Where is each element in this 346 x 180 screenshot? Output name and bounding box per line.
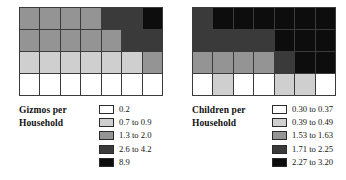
legend-item: 1.3 to 2.0 xyxy=(99,129,151,142)
map-cell xyxy=(234,8,253,29)
map-cell xyxy=(193,52,212,73)
map-cell xyxy=(40,74,59,95)
map-cell xyxy=(20,8,39,29)
map-cell xyxy=(316,74,335,95)
map-cell xyxy=(81,74,100,95)
map-cell xyxy=(295,30,314,51)
map-cell xyxy=(213,8,232,29)
legend-item-label: 1.71 to 2.25 xyxy=(292,145,333,154)
legend-item: 1.53 to 1.63 xyxy=(272,129,333,142)
legend-item: 0.39 to 0.49 xyxy=(272,116,333,129)
legend-item: 2.27 to 3.20 xyxy=(272,156,333,169)
map-cell xyxy=(143,52,162,73)
legend-item-label: 0.39 to 0.49 xyxy=(292,118,333,127)
map-cell xyxy=(234,30,253,51)
legend-swatch-icon xyxy=(99,145,114,154)
map-cell xyxy=(193,8,212,29)
panel-gizmos: Gizmos per Household 0.20.7 to 0.91.3 to… xyxy=(0,0,173,180)
map-cell xyxy=(20,74,39,95)
map-cell xyxy=(102,30,121,51)
map-cell xyxy=(102,8,121,29)
map-cell xyxy=(254,8,273,29)
children-legend-title: Children per Household xyxy=(192,103,270,129)
choropleth-figure: Gizmos per Household 0.20.7 to 0.91.3 to… xyxy=(0,0,346,180)
map-cell xyxy=(213,74,232,95)
legend-item-label: 2.27 to 3.20 xyxy=(292,158,333,167)
legend-item: 2.6 to 4.2 xyxy=(99,143,151,156)
map-cell xyxy=(234,52,253,73)
gizmos-grid xyxy=(19,7,163,96)
children-map xyxy=(192,7,336,96)
map-cell xyxy=(275,74,294,95)
gizmos-legend-title-line-1: Gizmos per xyxy=(19,104,97,117)
gizmos-legend-keys: 0.20.7 to 0.91.3 to 2.02.6 to 4.28.9 xyxy=(97,103,151,169)
gizmos-legend: Gizmos per Household 0.20.7 to 0.91.3 to… xyxy=(19,103,169,175)
children-legend-keys: 0.30 to 0.370.39 to 0.491.53 to 1.631.71… xyxy=(270,103,333,169)
legend-item: 8.9 xyxy=(99,156,151,169)
legend-item-label: 1.53 to 1.63 xyxy=(292,131,333,140)
children-legend-title-line-2: Household xyxy=(192,117,270,130)
map-cell xyxy=(122,30,141,51)
map-cell xyxy=(254,30,273,51)
map-cell xyxy=(122,74,141,95)
legend-swatch-icon xyxy=(99,118,114,127)
children-legend: Children per Household 0.30 to 0.370.39 … xyxy=(192,103,342,175)
map-cell xyxy=(275,52,294,73)
map-cell xyxy=(295,8,314,29)
map-cell xyxy=(81,52,100,73)
map-cell xyxy=(61,52,80,73)
map-cell xyxy=(81,30,100,51)
legend-item: 1.71 to 2.25 xyxy=(272,143,333,156)
map-cell xyxy=(122,52,141,73)
map-cell xyxy=(102,74,121,95)
legend-swatch-icon xyxy=(272,145,287,154)
legend-item-label: 0.2 xyxy=(119,105,130,114)
legend-swatch-icon xyxy=(272,118,287,127)
map-cell xyxy=(143,8,162,29)
map-cell xyxy=(316,30,335,51)
legend-swatch-icon xyxy=(99,158,114,167)
map-cell xyxy=(254,52,273,73)
legend-swatch-icon xyxy=(272,105,287,114)
map-cell xyxy=(40,8,59,29)
map-cell xyxy=(193,30,212,51)
map-cell xyxy=(143,74,162,95)
map-cell xyxy=(295,74,314,95)
map-cell xyxy=(275,30,294,51)
legend-item: 0.30 to 0.37 xyxy=(272,103,333,116)
map-cell xyxy=(40,30,59,51)
gizmos-map xyxy=(19,7,163,96)
map-cell xyxy=(61,30,80,51)
map-cell xyxy=(193,74,212,95)
map-cell xyxy=(316,52,335,73)
map-cell xyxy=(20,30,39,51)
children-grid xyxy=(192,7,336,96)
legend-swatch-icon xyxy=(272,158,287,167)
legend-swatch-icon xyxy=(272,131,287,140)
map-cell xyxy=(316,8,335,29)
legend-item-label: 8.9 xyxy=(119,158,130,167)
map-cell xyxy=(102,52,121,73)
map-cell xyxy=(61,8,80,29)
map-cell xyxy=(213,30,232,51)
legend-item-label: 0.7 to 0.9 xyxy=(119,118,151,127)
map-cell xyxy=(254,74,273,95)
map-cell xyxy=(143,30,162,51)
map-cell xyxy=(61,74,80,95)
map-cell xyxy=(81,8,100,29)
map-cell xyxy=(234,74,253,95)
map-cell xyxy=(275,8,294,29)
map-cell xyxy=(122,8,141,29)
legend-swatch-icon xyxy=(99,105,114,114)
map-cell xyxy=(20,52,39,73)
legend-swatch-icon xyxy=(99,131,114,140)
gizmos-legend-title-line-2: Household xyxy=(19,117,97,130)
legend-item-label: 0.30 to 0.37 xyxy=(292,105,333,114)
map-cell xyxy=(295,52,314,73)
legend-item-label: 2.6 to 4.2 xyxy=(119,145,151,154)
map-cell xyxy=(40,52,59,73)
map-cell xyxy=(213,52,232,73)
panel-children: Children per Household 0.30 to 0.370.39 … xyxy=(173,0,346,180)
children-legend-title-line-1: Children per xyxy=(192,104,270,117)
legend-item-label: 1.3 to 2.0 xyxy=(119,131,151,140)
